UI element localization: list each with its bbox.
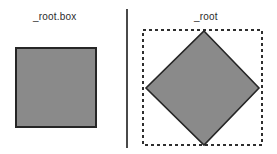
rotated-square-diamond (146, 31, 259, 145)
axis-aligned-square (16, 48, 96, 127)
shapes-layer (0, 0, 277, 154)
diagram-canvas: _root.box _root (0, 0, 277, 154)
